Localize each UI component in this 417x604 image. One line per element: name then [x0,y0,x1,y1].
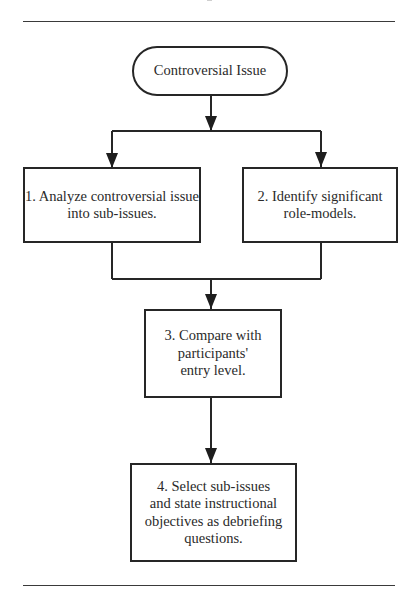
arrowhead-icon [315,152,327,167]
arrowhead-icon [205,448,217,463]
step-3-line: entry level. [164,362,261,379]
start-label: Controversial Issue [154,62,266,79]
step-2-line: role-models. [257,205,382,222]
step-3-line: participants' [164,345,261,362]
bottom-rule [23,585,395,586]
step-2-box: 2. Identify significant role-models. [242,167,398,243]
step-3-line: 3. Compare with [164,327,261,344]
arrowhead-icon [205,116,217,131]
step-4-line: objectives as debriefing [145,513,283,530]
step-1-line: 1. Analyze controversial issue [25,188,199,205]
step-4-line: questions. [145,530,283,547]
step-3-box: 3. Compare with participants' entry leve… [144,309,282,398]
start-terminal: Controversial Issue [132,46,288,96]
step-4-line: 4. Select sub-issues [145,478,283,495]
step-2-line: 2. Identify significant [257,188,382,205]
arrowhead-icon [106,153,118,168]
step-4-box: 4. Select sub-issues and state instructi… [130,463,297,562]
step-1-line: into sub-issues. [25,205,199,222]
step-1-box: 1. Analyze controversial issue into sub-… [23,167,201,243]
step-4-line: and state instructional [145,495,283,512]
arrowhead-icon [205,294,217,309]
